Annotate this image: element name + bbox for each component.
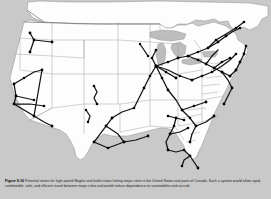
us-rail-map — [0, 0, 271, 176]
caption-body-text: Potential routes for high-speed Maglev a… — [5, 179, 261, 188]
figure-number: Figure 9-16 — [5, 179, 24, 183]
figure-container: Figure 9-16 Potential routes for high-sp… — [0, 0, 271, 199]
figure-caption: Figure 9-16 Potential routes for high-sp… — [0, 176, 271, 199]
map-area — [0, 0, 271, 176]
caption-paragraph: Figure 9-16 Potential routes for high-sp… — [5, 179, 265, 189]
